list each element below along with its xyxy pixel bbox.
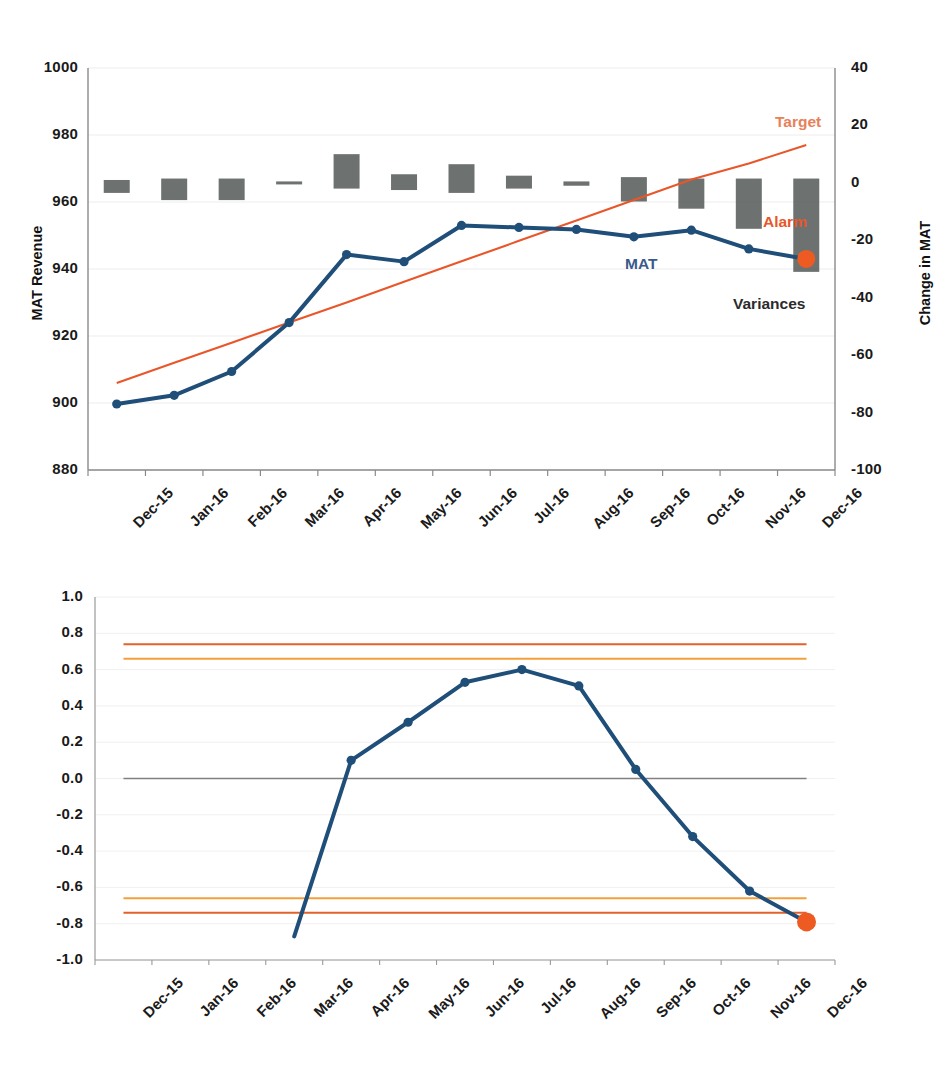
normalised-variance-plot-area [0,575,952,1076]
y-axis-tick-left: 920 [12,326,78,343]
variance-line [294,670,806,937]
variance-marker [688,832,697,841]
mat-marker [457,221,466,230]
x-tick-marks [95,960,835,965]
variance-bar [276,181,302,184]
y-axis-tick: -1.0 [17,950,83,967]
y-axis-tick: -0.6 [17,877,83,894]
variance-bars [104,154,820,272]
y-axis-tick-right: -20 [851,230,911,247]
y-axis-tick-left: 960 [12,192,78,209]
y-axis-title-right: Change in MAT [917,203,933,343]
variance-marker [631,765,640,774]
mat-marker [687,226,696,235]
mat-marker [572,225,581,234]
y-axis-tick: 0.6 [17,660,83,677]
y-axis-tick-right: 20 [851,115,911,132]
variance-bar [104,180,130,193]
variance-marker [347,756,356,765]
y-axis-tick: 0.4 [17,696,83,713]
x-tick-marks [88,470,835,476]
variance-bar [219,179,245,201]
variance-marker [574,681,583,690]
mat-marker [342,250,351,259]
variance-markers [347,665,816,931]
normalised-variance-chart: -1.0-0.8-0.6-0.4-0.20.00.20.40.60.81.0De… [0,575,952,1076]
y-axis-tick-left: 1000 [12,58,78,75]
y-axis-tick-right: 40 [851,58,911,75]
y-axis-tick: 1.0 [17,587,83,604]
y-axis-tick-right: 0 [851,173,911,190]
mat-markers [112,221,815,409]
alarm-label: Alarm [763,213,807,231]
y-axis-tick-left: 940 [12,259,78,276]
y-axis-tick: -0.2 [17,805,83,822]
target-label: Target [775,113,821,131]
variance-marker [460,678,469,687]
y-axis-tick: 0.2 [17,732,83,749]
y-axis-tick-right: -60 [851,345,911,362]
mat-marker [285,318,294,327]
y-axis-tick-left: 900 [12,393,78,410]
y-axis-tick-right: -40 [851,288,911,305]
mat-line [117,225,807,404]
y-axis-tick-right: -100 [851,460,911,477]
variance-bar [391,174,417,190]
variance-bar [563,181,589,185]
y-axis-tick: -0.8 [17,914,83,931]
variance-bar [161,179,187,201]
y-axis-tick: 0.0 [17,769,83,786]
mat-marker [170,391,179,400]
variance-marker [745,886,754,895]
mat-alarm-marker [797,250,815,268]
gridlines [88,68,835,470]
mat-marker [399,257,408,266]
y-axis-title-left: MAT Revenue [29,208,45,338]
y-axis-tick-right: -80 [851,403,911,420]
mat-marker [227,367,236,376]
variance-bar [736,179,762,229]
mat-revenue-chart: 8809009209409609801000-100-80-60-40-2002… [0,0,952,575]
mat-marker [112,399,121,408]
variance-bar [449,164,475,193]
variance-alarm-marker [797,912,816,931]
mat-marker [514,223,523,232]
variance-bar [506,176,532,189]
y-axis-tick-left: 980 [12,125,78,142]
y-axis-tick-left: 880 [12,460,78,477]
variance-marker [403,718,412,727]
variance-bar [334,154,360,188]
variance-marker [517,665,526,674]
mat-marker [629,232,638,241]
mat-marker [744,244,753,253]
y-axis-tick: 0.8 [17,623,83,640]
mat-label: MAT [625,255,657,273]
variances-label: Variances [733,295,805,313]
y-axis-tick: -0.4 [17,841,83,858]
mat-revenue-plot-area [0,0,952,575]
